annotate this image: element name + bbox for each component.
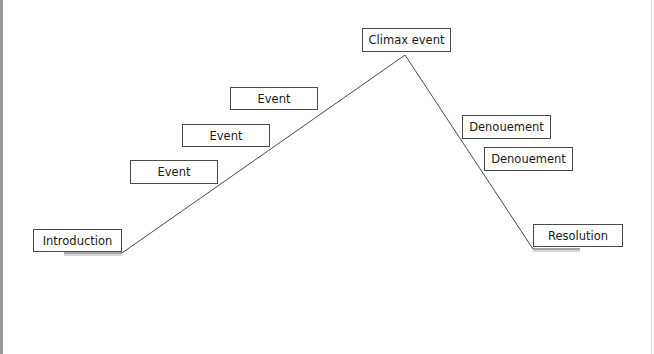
climax-label: Climax event	[369, 33, 445, 47]
introduction-label: Introduction	[43, 234, 113, 248]
event-label-2: Event	[210, 129, 243, 143]
denouement-box-2: Denouement	[484, 147, 573, 171]
event-box-2: Event	[182, 124, 270, 147]
resolution-label: Resolution	[548, 229, 608, 243]
denouement-label-1: Denouement	[469, 120, 544, 134]
event-label-3: Event	[258, 92, 291, 106]
resolution-box: Resolution	[533, 224, 623, 247]
climax-box: Climax event	[362, 28, 451, 52]
plot-line	[0, 0, 654, 354]
event-box-3: Event	[230, 87, 318, 110]
event-box-1: Event	[130, 160, 218, 184]
introduction-box: Introduction	[33, 229, 122, 252]
denouement-box-1: Denouement	[462, 115, 551, 139]
denouement-label-2: Denouement	[491, 152, 566, 166]
event-label-1: Event	[158, 165, 191, 179]
